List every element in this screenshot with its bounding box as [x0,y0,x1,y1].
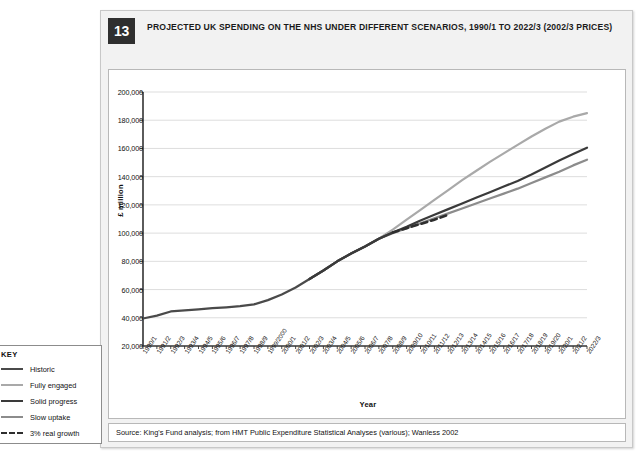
y-tick-label: 140,000 [85,173,143,182]
legend-item: Solid progress [1,393,101,409]
legend-swatch-fully-engaged [1,384,23,386]
figure-title: PROJECTED UK SPENDING ON THE NHS UNDER D… [147,18,612,33]
legend-swatch-slow-uptake [1,416,23,418]
figure-container: 13 PROJECTED UK SPENDING ON THE NHS UNDE… [100,10,633,448]
legend-label: Fully engaged [30,381,76,390]
y-axis-tick-labels: 200,000180,000160,000140,000120,000100,0… [83,70,143,346]
legend-label: 3% real growth [30,429,79,438]
figure-header: 13 PROJECTED UK SPENDING ON THE NHS UNDE… [108,18,626,66]
y-tick-label: 40,000 [85,314,143,323]
y-tick-label: 100,000 [85,229,143,238]
legend-label: Solid progress [30,397,77,406]
legend-swatch-solid-progress [1,400,23,402]
legend-swatch-3-real-growth [1,432,23,434]
legend-swatch-historic [1,368,23,370]
y-tick-label: 80,000 [85,257,143,266]
chart-plot-panel: 200,000180,000160,000140,000120,000100,0… [108,69,626,419]
line-chart-svg [109,70,627,420]
y-tick-label: 120,000 [85,201,143,210]
legend-item: Slow uptake [1,409,101,425]
x-axis-title: Year [109,400,627,409]
legend-item: Fully engaged [1,377,101,393]
chart-plot-inner: 200,000180,000160,000140,000120,000100,0… [109,70,625,418]
y-tick-label: 180,000 [85,116,143,125]
figure-source-text: Source: King's Fund analysis; from HMT P… [116,428,458,437]
y-tick-label: 60,000 [85,286,143,295]
y-tick-label: 160,000 [85,144,143,153]
legend-title: KEY [1,350,101,359]
legend-item: Historic [1,361,101,377]
legend-label: Slow uptake [30,413,70,422]
chart-legend: KEY HistoricFully engagedSolid progressS… [0,345,102,444]
figure-page: 13 PROJECTED UK SPENDING ON THE NHS UNDE… [0,0,643,458]
legend-label: Historic [30,365,55,374]
y-axis-title: £ million [116,156,125,246]
figure-source: Source: King's Fund analysis; from HMT P… [108,423,626,442]
legend-items: HistoricFully engagedSolid progressSlow … [0,361,101,441]
figure-number-badge: 13 [108,18,135,44]
y-tick-label: 200,000 [85,88,143,97]
legend-item: 3% real growth [1,425,101,441]
series-line-historic [143,232,393,318]
